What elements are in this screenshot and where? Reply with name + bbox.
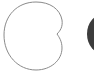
cardioid-outline xyxy=(4,2,62,70)
figure-canvas xyxy=(0,0,94,80)
dark-ellipse xyxy=(87,14,94,54)
